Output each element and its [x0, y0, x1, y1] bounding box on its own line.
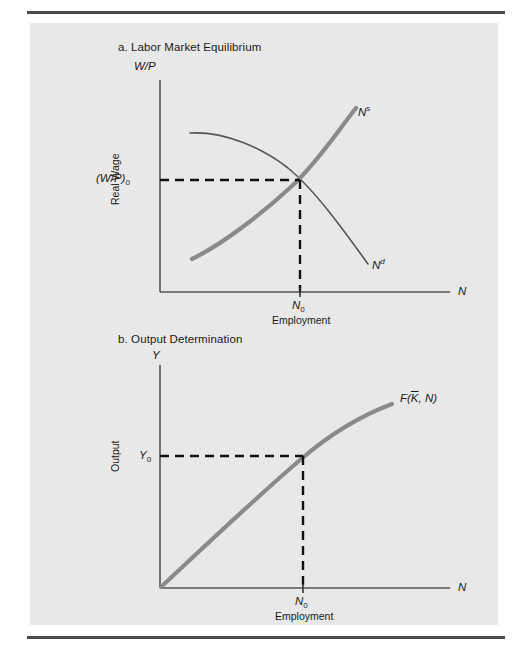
panel-a-x-axis-label: Employment — [272, 315, 330, 326]
panel-a-equilibrium-wage-subscript: 0 — [125, 178, 129, 187]
panel-b-x-axis-label: Employment — [275, 611, 333, 622]
panel-b-n0-subscript: 0 — [303, 601, 307, 610]
labor-demand-curve-superscript: d — [380, 257, 384, 266]
panel-a-x-axis-symbol: N — [458, 286, 466, 298]
production-function-prefix: F( — [400, 392, 411, 404]
production-function-suffix: , N) — [419, 392, 438, 404]
panel-b-output-subscript: 0 — [147, 455, 151, 464]
figure-graphics — [0, 0, 528, 650]
panel-a-graphics — [160, 80, 450, 297]
panel-a-n0-subscript: 0 — [300, 305, 304, 314]
production-function-capital-symbol: K — [411, 392, 419, 404]
panel-b-equilibrium-employment-label: N0 — [295, 596, 308, 610]
labor-supply-curve — [192, 108, 356, 259]
panel-b-output-symbol: Y — [139, 449, 147, 461]
production-function-label: F(K, N) — [400, 393, 437, 405]
production-function-curve — [161, 404, 392, 587]
figure-root: a. Labor Market Equilibrium W/P Real Wag… — [0, 0, 528, 650]
panel-b-equilibrium-output-label: Y0 — [139, 450, 151, 464]
panel-a-title: a. Labor Market Equilibrium — [118, 42, 261, 54]
panel-a-equilibrium-employment-label: N0 — [292, 300, 305, 314]
labor-supply-curve-superscript: s — [366, 104, 370, 113]
labor-supply-curve-label: Ns — [358, 105, 370, 118]
panel-b-y-axis-symbol: Y — [152, 350, 160, 362]
panel-a-equilibrium-wage-symbol: (W/P) — [96, 172, 125, 184]
panel-a-y-axis-symbol: W/P — [134, 61, 156, 73]
panel-a-equilibrium-wage-label: (W/P)0 — [96, 173, 130, 187]
panel-b-title: b. Output Determination — [118, 334, 242, 346]
panel-b-y-axis-label: Output — [110, 440, 121, 472]
labor-demand-curve-label: Nd — [372, 258, 385, 271]
panel-b-x-axis-symbol: N — [458, 582, 466, 594]
